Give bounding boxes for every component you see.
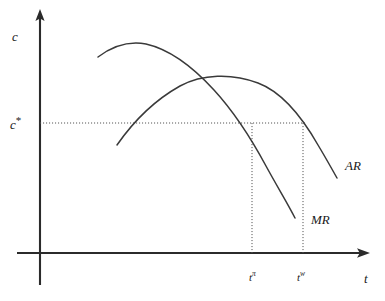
guide-lines-group — [40, 123, 305, 253]
t-w-tick-label: tw — [297, 270, 305, 283]
t-pi-tick-label: tπ — [249, 270, 256, 283]
axes-group — [17, 9, 370, 285]
x-axis-label: t — [364, 272, 368, 285]
c-star-tick-label: c* — [10, 115, 21, 131]
ar-curve — [117, 76, 337, 178]
t-w-superscript: w — [300, 269, 305, 278]
figure-canvas — [0, 0, 385, 301]
ar-curve-label: AR — [345, 159, 361, 172]
t-pi-superscript: π — [252, 269, 256, 278]
curves-group — [98, 43, 337, 218]
mr-curve-label: MR — [311, 213, 330, 226]
y-axis-label: c — [12, 30, 18, 43]
economics-figure: c c* t AR MR tπ tw — [0, 0, 385, 301]
c-star-superscript: * — [16, 114, 22, 126]
